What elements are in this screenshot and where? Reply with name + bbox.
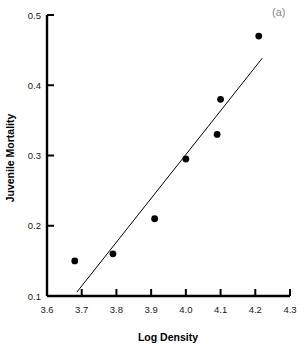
- x-tick-label: 3.6: [40, 304, 53, 315]
- data-point-marker: [182, 156, 189, 163]
- x-tick-label: 3.7: [75, 304, 88, 315]
- y-tick-label: 0.3: [28, 150, 41, 161]
- trendline: [77, 58, 262, 292]
- x-tick-label: 4.2: [249, 304, 262, 315]
- scatter-plot: 3.63.73.83.94.04.14.24.30.10.20.30.40.5 …: [0, 0, 308, 352]
- data-point-marker: [110, 250, 117, 257]
- x-tick-label: 4.3: [283, 304, 296, 315]
- data-points: [71, 33, 262, 265]
- data-point-marker: [255, 33, 262, 40]
- data-point-marker: [71, 257, 78, 264]
- y-tick-label: 0.4: [28, 80, 41, 91]
- y-tick-label: 0.5: [28, 10, 41, 21]
- regression-trendline: [77, 58, 262, 292]
- axis-ticks: [47, 15, 290, 296]
- data-point-marker: [214, 131, 221, 138]
- axes: [47, 15, 290, 296]
- data-point-marker: [151, 215, 158, 222]
- figure-panel-a: 3.63.73.83.94.04.14.24.30.10.20.30.40.5 …: [0, 0, 308, 352]
- y-tick-label: 0.2: [28, 220, 41, 231]
- axis-tick-labels: 3.63.73.83.94.04.14.24.30.10.20.30.40.5: [28, 10, 297, 316]
- panel-label: (a): [272, 6, 285, 18]
- x-tick-label: 4.0: [179, 304, 192, 315]
- x-tick-label: 3.8: [110, 304, 123, 315]
- x-tick-label: 4.1: [214, 304, 227, 315]
- y-tick-label: 0.1: [28, 291, 41, 302]
- x-axis-label: Log Density: [138, 331, 198, 343]
- y-axis-label: Juvenile Mortality: [4, 114, 16, 203]
- x-tick-label: 3.9: [145, 304, 158, 315]
- data-point-marker: [217, 96, 224, 103]
